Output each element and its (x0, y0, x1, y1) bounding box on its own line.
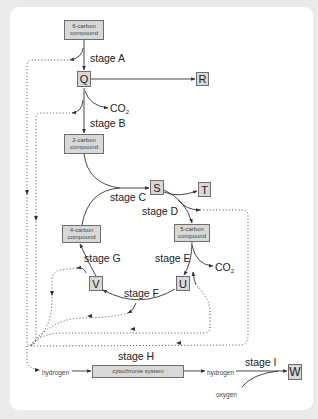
label-stage-f: stage F (124, 287, 159, 299)
label-co2-stage-b: CO2 (110, 102, 129, 118)
label-stage-b: stage B (90, 117, 126, 129)
label-stage-c: stage C (110, 191, 146, 203)
co2-text: CO (110, 102, 126, 114)
cytochrome-system-box: cytochrome system (92, 365, 184, 378)
label-hydrogen-out: hydrogen (207, 367, 234, 379)
two-carbon-compound-box: 2-carbon compound (64, 134, 104, 154)
label-oxygen: oxygen (216, 389, 237, 401)
box-q: Q (77, 71, 91, 87)
six-carbon-compound-box: 6-carbon compound (64, 20, 104, 40)
label-stage-i: stage I (245, 356, 277, 368)
box-v: V (89, 276, 103, 291)
co2-text: CO (215, 261, 231, 273)
label-hydrogen-in: hydrogen (42, 367, 69, 379)
label-stage-h: stage H (118, 350, 154, 362)
co2-subscript: 2 (126, 109, 129, 115)
four-carbon-compound-box: 4-carbon compound (62, 225, 101, 243)
box-u: U (176, 276, 190, 291)
co2-subscript: 2 (231, 268, 234, 274)
label-stage-e: stage E (155, 252, 191, 264)
box-s: S (150, 180, 164, 195)
label-stage-a: stage A (90, 52, 125, 64)
label-stage-d: stage D (142, 205, 178, 217)
label-co2-stage-e: CO2 (215, 261, 234, 277)
box-r: R (196, 72, 209, 86)
label-stage-g: stage G (84, 252, 121, 264)
box-t: T (198, 182, 211, 197)
box-w: W (288, 364, 302, 380)
five-carbon-compound-box: 5-carbon compound (174, 224, 210, 242)
